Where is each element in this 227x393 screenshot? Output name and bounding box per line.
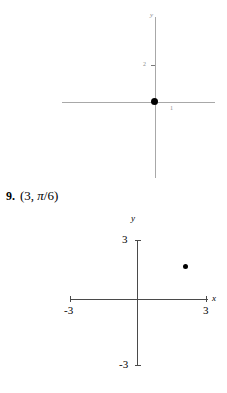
- lower-y-tick-bottom: [135, 365, 141, 366]
- lower-coordinate-plane: 3 -3 -3 3 x y: [0, 205, 227, 393]
- lower-x-axis: [70, 299, 208, 300]
- problem-line: 9.(3, π/6): [6, 188, 58, 204]
- lower-x-tick-label-right: 3: [203, 305, 209, 316]
- lower-x-axis-label: x: [212, 294, 216, 303]
- paren-close: ): [54, 188, 58, 203]
- problem-number: 9.: [6, 189, 15, 203]
- lower-x-tick-left: [70, 296, 71, 302]
- lower-y-tick-label-bottom: -3: [119, 359, 128, 370]
- upper-y-tick-mark: [151, 65, 155, 66]
- upper-x-tick-label: 1: [170, 105, 173, 111]
- lower-y-axis-label: y: [131, 214, 135, 223]
- lower-x-tick-right: [206, 296, 207, 302]
- lower-y-tick-top: [135, 240, 141, 241]
- problem-expression: (3, π/6): [20, 188, 58, 203]
- lower-y-tick-label-top: 3: [122, 234, 128, 245]
- lower-x-tick-label-left: -3: [64, 305, 73, 316]
- upper-y-tick-label: 2: [143, 61, 146, 67]
- plotted-point: [183, 264, 188, 269]
- upper-coordinate-plane: y 2 1: [0, 0, 227, 185]
- upper-origin-dot: [151, 98, 158, 105]
- upper-x-axis: [62, 102, 215, 103]
- lower-y-axis: [137, 240, 138, 366]
- upper-y-axis-label: y: [150, 12, 153, 19]
